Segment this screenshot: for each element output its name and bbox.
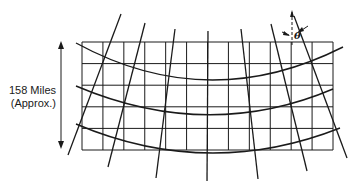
dimension-label-line2: (Approx.)	[2, 97, 56, 110]
angle-theta-symbol: θ	[294, 30, 301, 41]
meridian-6	[271, 24, 307, 171]
dimension-label: 158 Miles (Approx.)	[2, 84, 56, 110]
meridian-lines	[68, 14, 347, 181]
parallel-top	[76, 43, 343, 80]
meridian-1	[68, 14, 121, 155]
parallel-middle	[76, 86, 333, 115]
dimension-arrow	[58, 41, 64, 149]
dimension-label-line1: 158 Miles	[2, 84, 56, 97]
meridian-2	[108, 23, 145, 167]
meridian-7	[294, 16, 347, 158]
